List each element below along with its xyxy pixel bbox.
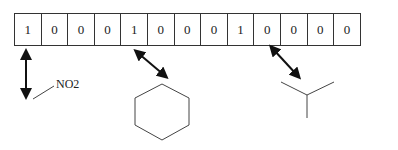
nitro-bond-line [33, 86, 54, 99]
benzene-ring-icon [135, 84, 189, 140]
branch-fragment-icon [281, 82, 334, 118]
double-arrow-icon [273, 49, 297, 75]
nitro-group-label: NO2 [56, 77, 79, 92]
fragment-diagram [0, 0, 398, 150]
double-arrow-icon [138, 53, 164, 75]
